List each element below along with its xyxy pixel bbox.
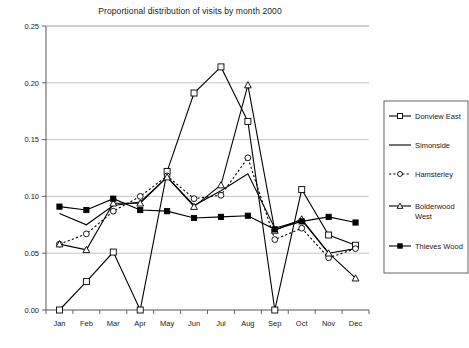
data-point-marker [137, 307, 143, 313]
y-tick-label: 0.25 [24, 22, 39, 31]
legend-item-label[interactable]: Hamsterley [415, 170, 453, 179]
x-tick-label: Nov [322, 319, 336, 328]
y-axis-ticks: 0.000.050.100.150.200.25 [24, 22, 46, 315]
data-point-marker [110, 208, 116, 214]
series-line-hamsterley [59, 158, 355, 258]
y-tick-label: 0.10 [24, 192, 39, 201]
data-point-marker [353, 246, 359, 252]
data-point-marker [272, 307, 278, 313]
data-point-marker [84, 207, 89, 212]
legend-item-label[interactable]: West [415, 212, 433, 221]
x-tick-label: Sep [268, 319, 281, 328]
data-point-marker [191, 215, 196, 220]
data-point-marker [218, 182, 225, 188]
data-point-marker [326, 232, 332, 238]
y-tick-label: 0.05 [24, 249, 39, 258]
x-tick-label: Jan [53, 319, 65, 328]
legend-item-label[interactable]: Donview East [415, 112, 462, 121]
legend: Donview EastSimonsideHamsterleyBolderwoo… [384, 101, 468, 273]
plot-area: 0.000.050.100.150.200.25 JanFebMarAprMay… [0, 0, 469, 348]
data-point-marker [299, 219, 304, 224]
x-tick-label: Dec [349, 319, 363, 328]
data-point-marker [272, 227, 277, 232]
x-tick-label: May [160, 319, 174, 328]
series-lines [59, 67, 355, 310]
x-tick-label: Apr [134, 319, 146, 328]
data-point-marker [299, 187, 305, 193]
data-point-marker [398, 244, 402, 248]
x-axis-ticks: JanFebMarAprMayJunJulAugSepOctNovDec [46, 310, 369, 328]
y-tick-label: 0.00 [24, 306, 39, 315]
data-point-marker [191, 196, 197, 202]
chart-svg: 0.000.050.100.150.200.25 JanFebMarAprMay… [0, 0, 469, 348]
x-tick-label: Jun [188, 319, 200, 328]
y-tick-label: 0.20 [24, 79, 39, 88]
data-point-marker [57, 204, 62, 209]
x-tick-label: Aug [241, 319, 254, 328]
data-point-marker [111, 196, 116, 201]
data-point-marker [245, 118, 251, 124]
y-tick-label: 0.15 [24, 135, 39, 144]
data-point-marker [165, 209, 170, 214]
data-point-marker [397, 113, 402, 118]
data-point-marker [56, 307, 62, 313]
data-point-marker [191, 90, 197, 96]
series-line-simonside [59, 174, 355, 254]
data-point-marker [245, 155, 251, 161]
x-tick-label: Mar [107, 319, 120, 328]
x-tick-label: Feb [80, 319, 93, 328]
legend-item-label[interactable]: Bolderwood [415, 202, 455, 211]
data-point-marker [137, 194, 143, 200]
data-point-marker [83, 231, 89, 237]
data-point-marker [218, 192, 224, 198]
series-line-bolderwood-west [59, 85, 355, 278]
data-point-marker [110, 249, 116, 255]
series-markers [56, 64, 359, 313]
data-point-marker [218, 214, 223, 219]
chart-root: Proportional distribution of visits by m… [0, 0, 469, 348]
x-tick-label: Oct [296, 319, 309, 328]
data-point-marker [83, 279, 89, 285]
data-point-marker [299, 225, 305, 231]
data-point-marker [245, 213, 250, 218]
series-line-thieves-wood [59, 199, 355, 230]
data-point-marker [398, 172, 403, 177]
legend-item-label[interactable]: Thieves Wood [415, 242, 463, 251]
data-point-marker [272, 237, 278, 243]
data-point-marker [218, 64, 224, 70]
legend-item-label[interactable]: Simonside [415, 141, 450, 150]
data-point-marker [326, 214, 331, 219]
data-point-marker [353, 220, 358, 225]
axis-lines [46, 26, 369, 310]
series-line-donview-east [59, 67, 355, 310]
x-tick-label: Jul [216, 319, 226, 328]
data-point-marker [138, 207, 143, 212]
